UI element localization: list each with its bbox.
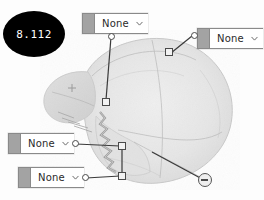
chevron-down-icon — [61, 139, 70, 148]
connector-anchor-top[interactable] — [108, 33, 115, 40]
drag-grip-handle-low-left[interactable] — [19, 168, 31, 187]
dropdown-field-right[interactable]: None — [210, 29, 263, 48]
dropdown-value-top: None — [102, 19, 129, 29]
value-badge-text: 8.112 — [16, 28, 52, 41]
dropdown-field-top[interactable]: None — [95, 14, 148, 33]
annotation-dropdown-low-left[interactable]: None — [18, 167, 84, 188]
chevron-down-icon — [71, 173, 80, 182]
minus-icon-button[interactable] — [198, 173, 212, 187]
dropdown-value-right: None — [217, 34, 244, 44]
drag-grip-handle-mid-left[interactable] — [9, 134, 21, 153]
annotation-dropdown-top[interactable]: None — [82, 13, 148, 34]
square-marker-b[interactable] — [165, 48, 173, 56]
annotation-canvas: 8.112 None None None — [0, 0, 264, 200]
annotation-dropdown-right[interactable]: None — [197, 28, 263, 49]
connector-anchor-right[interactable] — [191, 32, 198, 39]
square-marker-d[interactable] — [118, 172, 126, 180]
dropdown-field-low-left[interactable]: None — [31, 168, 84, 187]
drag-grip-handle-top[interactable] — [83, 14, 95, 33]
square-marker-c[interactable] — [118, 142, 126, 150]
connector-anchor-mid-left[interactable] — [72, 140, 79, 147]
connector-anchor-low-left[interactable] — [82, 174, 89, 181]
dropdown-value-low-left: None — [38, 173, 65, 183]
chevron-down-icon — [250, 34, 259, 43]
chevron-down-icon — [135, 19, 144, 28]
dropdown-field-mid-left[interactable]: None — [21, 134, 74, 153]
value-badge: 8.112 — [3, 11, 65, 57]
drag-grip-handle-right[interactable] — [198, 29, 210, 48]
dropdown-value-mid-left: None — [28, 139, 55, 149]
annotation-dropdown-mid-left[interactable]: None — [8, 133, 74, 154]
square-marker-a[interactable] — [102, 98, 110, 106]
